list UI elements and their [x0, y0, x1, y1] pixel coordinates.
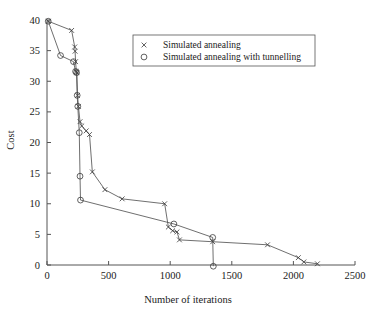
x-tick-label: 2500	[345, 270, 366, 281]
x-tick-label: 1000	[160, 270, 181, 281]
y-tick-label: 35	[30, 45, 41, 56]
legend-entry-simulated-annealing-tunnelling: Simulated annealing with tunnelling	[141, 52, 301, 62]
y-axis-title: Cost	[5, 130, 16, 149]
x-tick-label: 500	[101, 270, 117, 281]
x-tick-label: 2000	[283, 270, 304, 281]
y-tick-label: 30	[30, 76, 41, 87]
y-tick-label: 15	[30, 168, 41, 179]
legend-label-0: Simulated annealing	[163, 40, 241, 50]
y-tick-label: 20	[30, 137, 41, 148]
y-tick-label: 40	[30, 15, 41, 26]
chart-legend: Simulated annealing Simulated annealing …	[133, 35, 315, 66]
x-tick-label: 0	[44, 270, 49, 281]
chart-container: 05001000150020002500 0510152025303540 Nu…	[0, 0, 376, 313]
y-tick-label: 5	[35, 229, 40, 240]
x-tick-label: 1500	[221, 270, 242, 281]
y-tick-label: 25	[30, 106, 41, 117]
y-tick-label: 10	[30, 198, 41, 209]
y-tick-label: 0	[35, 260, 40, 271]
scatter-line-chart: 05001000150020002500 0510152025303540 Nu…	[0, 0, 376, 313]
legend-label-1: Simulated annealing with tunnelling	[163, 52, 301, 62]
x-axis-title: Number of iterations	[144, 294, 231, 305]
